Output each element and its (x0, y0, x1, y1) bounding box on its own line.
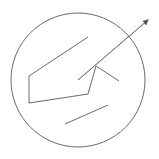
open-polyline-shape (29, 37, 119, 103)
diagram-canvas (0, 0, 159, 159)
line-segment (65, 105, 108, 124)
